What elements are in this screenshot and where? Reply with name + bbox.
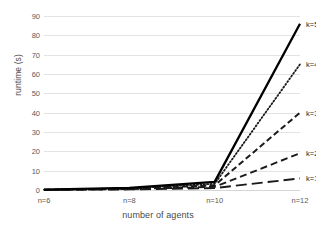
y-axis-tick-label: 20: [6, 147, 40, 156]
plot-area: [44, 16, 300, 190]
y-axis-tick-label: 80: [6, 31, 40, 40]
y-axis-tick-label: 30: [6, 128, 40, 137]
y-axis-tick-label: 60: [6, 70, 40, 79]
series-lines: [44, 16, 300, 190]
y-axis-tick-label: 90: [6, 12, 40, 21]
x-axis-tick-label: n=10: [206, 196, 223, 205]
series-line-k5: [44, 24, 300, 190]
series-line-k4: [44, 64, 300, 189]
series-label-k4: k=4: [306, 60, 316, 69]
y-axis-tick-label: 0: [6, 186, 40, 195]
x-axis-tick-label: n=8: [123, 196, 136, 205]
y-axis-tick-label: 10: [6, 166, 40, 175]
x-axis-tick-label: n=6: [38, 196, 51, 205]
series-line-k3: [44, 113, 300, 190]
series-label-k1: k=1: [306, 174, 316, 183]
series-label-k3: k=3: [306, 108, 316, 117]
y-axis-tick-label: 50: [6, 89, 40, 98]
y-axis-tick-label: 40: [6, 108, 40, 117]
line-chart: runtime (s) number of agents 01020304050…: [0, 0, 316, 230]
series-label-k2: k=2: [306, 149, 316, 158]
y-axis-tick-label: 70: [6, 50, 40, 59]
x-axis-title: number of agents: [0, 210, 316, 220]
x-axis-tick-label: n=12: [292, 196, 309, 205]
series-label-k5: k=5: [306, 19, 316, 28]
